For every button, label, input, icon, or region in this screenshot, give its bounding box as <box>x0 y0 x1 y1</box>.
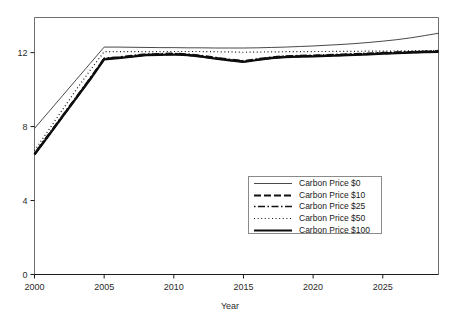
svg-text:2015: 2015 <box>233 282 253 292</box>
legend-item: Carbon Price $100 <box>249 224 381 236</box>
svg-text:12: 12 <box>17 48 27 58</box>
legend-swatch-4 <box>253 225 293 236</box>
svg-text:8: 8 <box>22 122 27 132</box>
data-series-group <box>35 33 439 154</box>
svg-text:0: 0 <box>22 270 27 280</box>
legend-label-2: Carbon Price $25 <box>299 201 365 212</box>
svg-text:2000: 2000 <box>24 282 44 292</box>
svg-text:2005: 2005 <box>94 282 114 292</box>
svg-text:2025: 2025 <box>373 282 393 292</box>
chart-canvas: 04812200020052010201520202025 Year <box>0 0 453 321</box>
legend-swatch-0 <box>253 178 293 189</box>
chart-legend: Carbon Price $0 Carbon Price $10 Carbon … <box>248 176 382 234</box>
legend-label-0: Carbon Price $0 <box>299 178 360 189</box>
legend-label-4: Carbon Price $100 <box>299 225 370 236</box>
legend-item: Carbon Price $25 <box>249 201 381 213</box>
legend-swatch-1 <box>253 190 293 201</box>
legend-label-3: Carbon Price $50 <box>299 213 365 224</box>
legend-swatch-3 <box>253 213 293 224</box>
svg-text:2020: 2020 <box>303 282 323 292</box>
legend-item: Carbon Price $0 <box>249 178 381 190</box>
svg-text:2010: 2010 <box>164 282 184 292</box>
legend-swatch-2 <box>253 201 293 212</box>
legend-item: Carbon Price $50 <box>249 213 381 225</box>
line-chart: 04812200020052010201520202025 Year Carbo… <box>0 0 453 321</box>
legend-item: Carbon Price $10 <box>249 190 381 202</box>
x-axis-title: Year <box>221 301 239 311</box>
svg-text:4: 4 <box>22 196 27 206</box>
legend-label-1: Carbon Price $10 <box>299 190 365 201</box>
axis-tick-labels: 04812200020052010201520202025 <box>17 48 392 292</box>
